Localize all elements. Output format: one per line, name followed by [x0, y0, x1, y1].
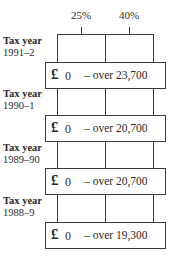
row-label-1990-1: Tax year 1990–1	[3, 88, 57, 112]
tax-year-title: Tax year	[3, 142, 57, 154]
band-start: 0	[65, 69, 71, 84]
row-label-1988-9: Tax year 1988–9	[3, 195, 57, 219]
pound-sign: £	[51, 66, 59, 83]
band-range: – over 20,700	[84, 175, 148, 187]
band-start: 0	[65, 229, 71, 244]
grid-top-line	[57, 34, 154, 35]
pound-sign: £	[51, 119, 59, 136]
tax-year-value: 1989–90	[3, 154, 57, 166]
tax-band-box-1988-9: £ 0 – over 19,300	[45, 222, 166, 249]
pound-sign: £	[51, 226, 59, 243]
tax-year-title: Tax year	[3, 195, 57, 207]
band-start: 0	[65, 175, 71, 190]
band-range: – over 20,700	[84, 122, 148, 134]
band-range: – over 19,300	[84, 229, 148, 241]
band-range: – over 23,700	[84, 69, 148, 81]
tax-year-value: 1990–1	[3, 100, 57, 112]
rate-label-25: 25%	[71, 9, 91, 21]
rate-label-40: 40%	[119, 9, 139, 21]
row-label-1991-2: Tax year 1991–2	[3, 35, 57, 59]
band-start: 0	[65, 122, 71, 137]
tax-year-title: Tax year	[3, 88, 57, 100]
tax-band-box-1990-1: £ 0 – over 20,700	[45, 115, 166, 142]
tax-band-box-1991-2: £ 0 – over 23,700	[45, 62, 166, 89]
row-label-1989-90: Tax year 1989–90	[3, 142, 57, 166]
tax-band-box-1989-90: £ 0 – over 20,700	[45, 168, 166, 195]
tax-year-title: Tax year	[3, 35, 57, 47]
rate-tick-40	[129, 27, 130, 34]
tax-year-value: 1988–9	[3, 207, 57, 219]
pound-sign: £	[51, 172, 59, 189]
tax-year-value: 1991–2	[3, 47, 57, 59]
rate-tick-25	[81, 27, 82, 34]
